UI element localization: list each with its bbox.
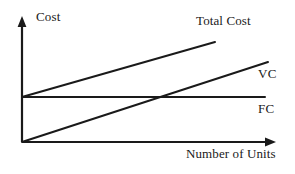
vc-series-label: VC xyxy=(258,67,277,80)
cost-behavior-chart: Cost Total Cost VC FC Number of Units xyxy=(0,0,295,174)
vc-line xyxy=(22,62,268,142)
y-axis-arrowhead xyxy=(18,16,27,27)
fc-series-label: FC xyxy=(258,102,275,115)
y-axis-label: Cost xyxy=(36,10,61,23)
total-cost-series-label: Total Cost xyxy=(196,14,251,27)
x-axis-label: Number of Units xyxy=(186,147,276,160)
